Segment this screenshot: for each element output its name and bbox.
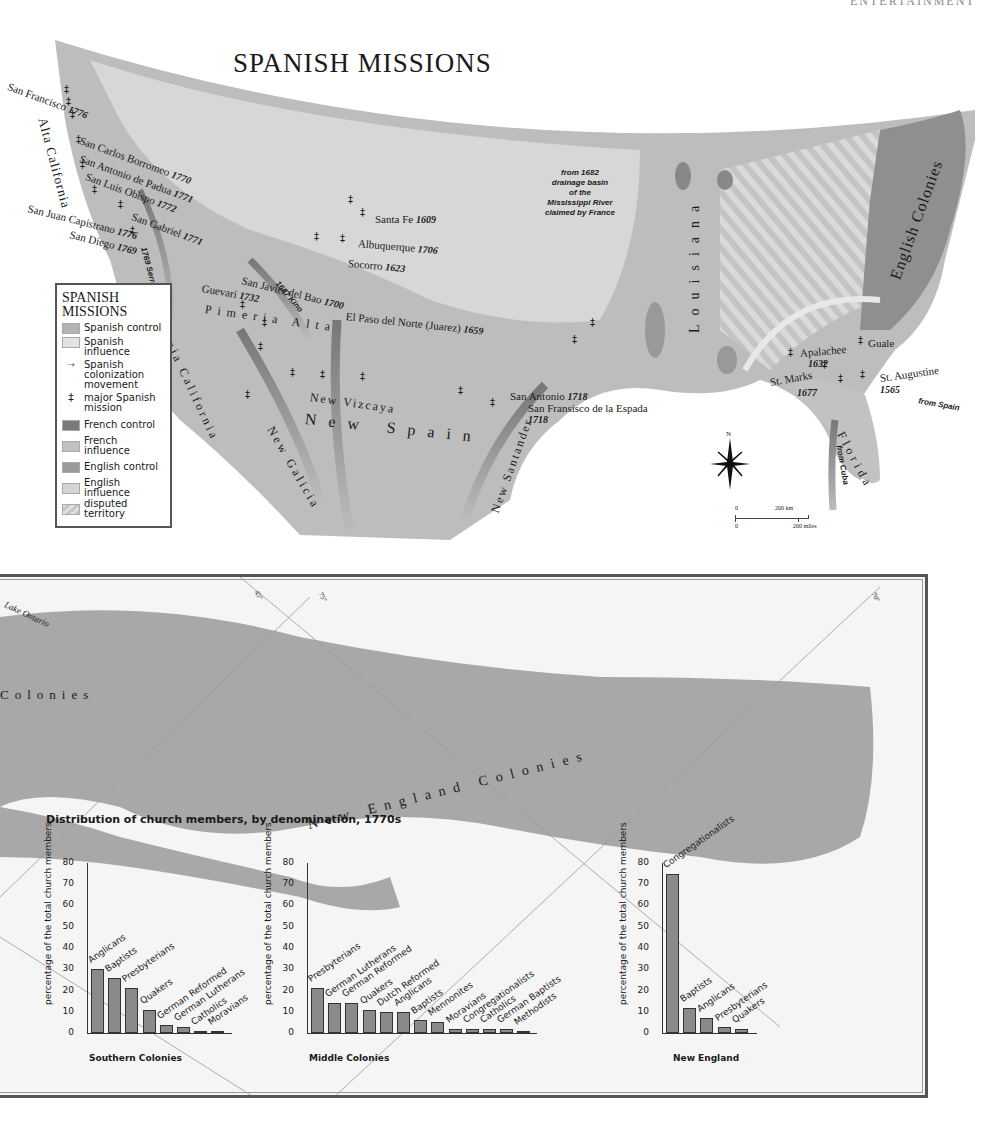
swatch (62, 483, 80, 494)
mission-cross-icon: ‡ (314, 232, 319, 242)
mission-label: San Antonio 1718 (510, 390, 587, 402)
region-louisiana: Louisiana (687, 197, 703, 333)
legend-item-disputed-territory: disputed territory (62, 500, 165, 518)
region-colonies-left: Colonies (0, 687, 94, 703)
map-legend: SPANISH MISSIONS Spanish control Spanish… (55, 283, 172, 528)
legend-item-colonization-movement: ➝Spanish colonization movement (62, 360, 165, 390)
bar (700, 1018, 713, 1033)
bars: CongregationalistsBaptistsAnglicansPresb… (615, 855, 835, 1075)
mission-cross-icon: ‡ (66, 97, 71, 107)
bar (125, 988, 138, 1033)
mission-cross-icon: ‡ (130, 226, 135, 236)
mission-cross-icon: ‡ (822, 360, 827, 370)
chart-middle-colonies: percentage of the total church members 8… (260, 855, 590, 1075)
mission-cross-icon: ‡ (76, 135, 81, 145)
bar (328, 1003, 341, 1033)
chart-new-england: percentage of the total church members 8… (615, 855, 835, 1075)
chart-caption: New England (673, 1053, 739, 1063)
compass-rose-icon: N (710, 430, 750, 490)
charts-title: Distribution of church members, by denom… (46, 813, 401, 826)
legend-item-french-control: French control (62, 416, 165, 434)
mission-cross-icon: ‡ (92, 185, 97, 195)
legend-item-english-control: English control (62, 458, 165, 476)
legend-item-major-mission: ‡major Spanish mission (62, 393, 165, 413)
mission-label: Santa Fe 1609 (375, 213, 436, 225)
mission-cross-icon: ‡ (64, 85, 69, 95)
arrow-icon: ➝ (62, 360, 80, 371)
legend-item-spanish-control: Spanish control (62, 323, 165, 334)
france-claim-note: from 1682drainage basinof theMississippi… (540, 168, 620, 218)
bar (311, 988, 324, 1033)
bar (517, 1031, 530, 1033)
mission-cross-icon: ‡ (118, 200, 123, 210)
running-head: ENTERTAINMENT (850, 0, 976, 9)
mission-cross-icon: ‡ (240, 300, 245, 310)
bar (91, 969, 104, 1033)
bar (735, 1029, 748, 1033)
mission-cross-icon: ‡ (788, 348, 793, 358)
legend-title: SPANISH MISSIONS (62, 291, 165, 319)
mission-cross-icon: ‡ (262, 318, 267, 328)
bar (380, 1012, 393, 1033)
legend-item-french-influence: French influence (62, 437, 165, 455)
mission-cross-icon: ‡ (458, 386, 463, 396)
legend-item-english-influence: English influence (62, 479, 165, 497)
bars: PresbyteriansGerman LutheransGerman Refo… (260, 855, 590, 1075)
swatch (62, 504, 80, 515)
chart-caption: Southern Colonies (89, 1053, 182, 1063)
scale-km-label: 200 km (775, 505, 793, 511)
mission-cross-icon: ‡ (860, 370, 865, 380)
bars: AnglicansBaptistsPresbyteriansQuakersGer… (40, 855, 260, 1075)
mission-cross-icon: ‡ (360, 372, 365, 382)
bar (143, 1010, 156, 1033)
bar (160, 1025, 173, 1034)
bar (449, 1029, 462, 1033)
spanish-missions-map: ENTERTAINMENT SPANISH MISSIONS Alta Cali… (0, 0, 1006, 560)
mission-cross-icon: ‡ (838, 374, 843, 384)
mission-cross-icon: ‡ (320, 370, 325, 380)
bar (500, 1029, 513, 1033)
mission-cross-icon: ‡ (858, 336, 863, 346)
scale-mi-zero: 0 (735, 523, 738, 529)
swatch (62, 462, 80, 473)
scale-mi-label: 200 miles (793, 523, 817, 529)
bar (177, 1027, 190, 1033)
mission-cross-icon: ‡ (490, 398, 495, 408)
bar (345, 1003, 358, 1033)
bar (363, 1010, 376, 1033)
mission-cross-icon: ‡ (258, 342, 263, 352)
bar (718, 1027, 731, 1033)
compass-north-label: N (726, 430, 731, 438)
mission-cross-icon: ‡ (80, 160, 85, 170)
swatch (62, 441, 80, 452)
mission-cross-icon: ‡ (340, 234, 345, 244)
bar (108, 978, 121, 1033)
mission-label: 1677 (797, 386, 817, 398)
chart-southern-colonies: percentage of the total church members 8… (40, 855, 260, 1075)
mission-cross-icon: ‡ (290, 368, 295, 378)
legend-item-spanish-influence: Spanish influence (62, 337, 165, 357)
mission-cross-icon: ‡ (245, 390, 250, 400)
bar-label: Quakers (138, 976, 174, 1005)
bar (483, 1029, 496, 1033)
mission-cross-icon: ‡ (62, 393, 80, 404)
swatch (62, 337, 80, 348)
scale-km-zero: 0 (735, 505, 738, 511)
mission-cross-icon: ‡ (360, 208, 365, 218)
mission-cross-icon: ‡ (70, 110, 75, 120)
mission-cross-icon: ‡ (590, 318, 595, 328)
map-title: SPANISH MISSIONS (233, 48, 492, 79)
bar (397, 1012, 410, 1033)
church-members-panel: Lake Ontario 45° 75° 70° Colonies New En… (0, 574, 928, 1098)
bar (211, 1031, 224, 1033)
scale-bar: 0 200 km 0 200 miles (735, 505, 845, 535)
bar (683, 1008, 696, 1034)
chart-caption: Middle Colonies (309, 1053, 389, 1063)
bar (431, 1022, 444, 1033)
bar (414, 1020, 427, 1033)
bar (466, 1029, 479, 1033)
mission-cross-icon: ‡ (572, 335, 577, 345)
mission-label: 1565 (880, 383, 900, 395)
bar (666, 874, 679, 1033)
mission-cross-icon: ‡ (348, 195, 353, 205)
